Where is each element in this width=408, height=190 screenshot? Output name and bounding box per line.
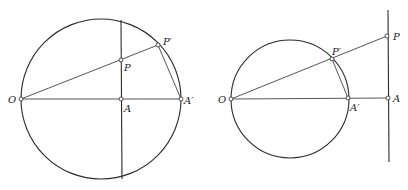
left-point-P [119,58,123,62]
right-label-P-prime: P′ [331,46,342,57]
right-axis-OA [231,98,388,99]
right-point-A-prime [346,96,350,100]
right-figure: O P P′ A A′ [218,10,400,162]
right-point-P-prime [330,57,334,61]
inversion-diagram: O P P′ A A′ O P P′ A A′ [0,0,408,190]
left-point-P-prime [156,43,160,47]
right-label-O: O [218,94,226,105]
right-label-A: A [392,93,400,104]
right-label-P: P [392,31,400,42]
left-label-A: A [123,103,131,114]
left-point-O [19,97,23,101]
right-point-O [229,97,233,101]
left-point-A [119,97,123,101]
left-figure: O P P′ A A′ [8,19,194,179]
left-label-P: P [123,62,131,73]
left-point-A-prime [179,97,183,101]
right-ray-OP [231,36,387,99]
right-label-A-prime: A′ [349,102,360,113]
left-label-O: O [8,94,16,105]
left-label-P-prime: P′ [162,36,173,47]
right-point-P [385,34,389,38]
right-vertical-line [388,10,389,162]
left-label-A-prime: A′ [183,95,194,106]
left-chord-PA [158,45,181,99]
left-ray-OP [21,45,158,99]
right-point-A [386,96,390,100]
